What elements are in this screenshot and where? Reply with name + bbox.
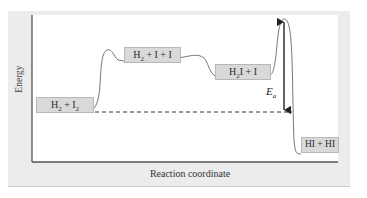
species-text: HI + HI [305,139,335,149]
species-text: + I + I [144,49,172,60]
species-text: I + I [240,66,257,77]
activation-energy-label: Ea [266,85,276,100]
energy-diagram-figure: Energy H2 + I2 H2 + I + I H2I + I HI + H… [0,0,367,198]
ea-subscript: a [273,92,277,100]
species-box-intermediate-1: H2 + I + I [124,47,181,63]
species-text: + I [62,99,76,110]
species-subscript: 2 [76,105,80,113]
species-box-intermediate-2: H2I + I [215,64,271,80]
species-box-products: HI + HI [301,137,339,153]
species-box-reactants: H2 + I2 [36,97,94,113]
ea-symbol: E [266,85,273,97]
x-axis-label: Reaction coordinate [100,168,280,179]
y-axis-label: Energy [14,64,28,94]
